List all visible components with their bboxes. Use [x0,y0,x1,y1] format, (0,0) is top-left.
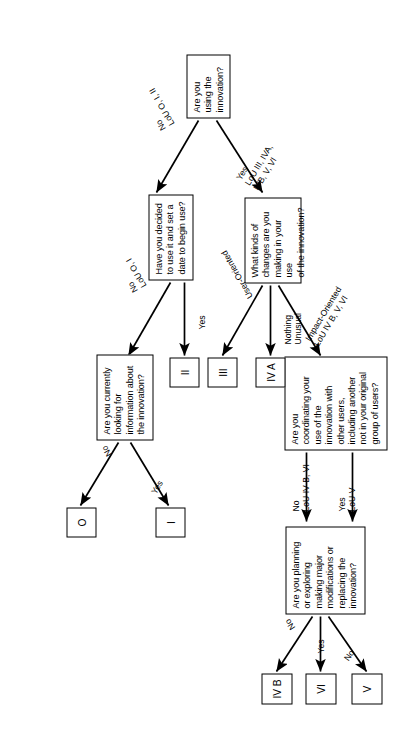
terminal-label: V [361,685,372,692]
node-are-you-using-the-innovation[interactable]: Are you using the innovation? [186,54,230,118]
rotated-diagram-group: Are you using the innovation? Have you d… [0,0,414,737]
terminal-lou-III[interactable]: III [207,357,237,387]
flowchart-canvas: Are you using the innovation? Have you d… [0,0,414,737]
node-are-you-currently-looking-for-information[interactable]: Are you currently looking for informatio… [96,354,153,440]
edge-label-coordinating-no: No LoU IV B, VI [280,464,310,511]
node-label: What kinds of changes are you making in … [245,198,309,282]
terminal-lou-IVB[interactable]: IV B [261,673,292,704]
terminal-label: VI [315,684,326,694]
node-label: Are you planning or exploring making maj… [286,536,361,613]
node-have-you-decided-to-use-it[interactable]: Have you decided to use it and set a dat… [148,194,193,280]
node-what-kinds-of-changes[interactable]: What kinds of changes are you making in … [244,197,301,283]
edge-planning-no-v [328,616,366,671]
edge-label-text: Yes [315,639,325,653]
terminal-lou-0[interactable]: O [66,507,96,537]
node-are-you-planning-or-exploring[interactable]: Are you planning or exploring making maj… [285,526,365,614]
node-are-you-coordinating-your-use[interactable]: Are you coordinating your use of the inn… [284,356,387,450]
node-label: Have you decided to use it and set a dat… [149,196,190,279]
terminal-label: IV B [271,679,282,698]
edge-label-text: No LoU IV B, VI [290,464,310,511]
terminal-label: I [165,521,176,524]
edge-label-coordinating-yes: Yes LoU V [326,487,356,511]
terminal-lou-I[interactable]: I [155,507,185,537]
terminal-lou-II[interactable]: II [169,357,199,387]
edge-label-text: Yes LoU V [336,487,356,511]
edge-using-no [156,120,198,192]
terminal-lou-VI[interactable]: VI [305,673,336,704]
terminal-lou-IVA[interactable]: IV A [255,357,285,387]
terminal-label: IV A [265,363,276,382]
edge-label-planning-yes: Yes [305,639,325,653]
terminal-label: III [217,368,228,376]
edge-label-text: Yes [196,315,206,329]
node-label: Are you currently looking for informatio… [97,360,150,439]
node-label: Are you using the innovation? [187,62,228,117]
edge-label-decided-yes: Yes [186,315,206,329]
terminal-label: II [179,369,190,375]
terminal-label: O [76,518,87,526]
node-label: Are you coordinating your use of the inn… [285,367,383,449]
edge-decided-no [128,282,170,355]
terminal-lou-V[interactable]: V [351,673,382,704]
